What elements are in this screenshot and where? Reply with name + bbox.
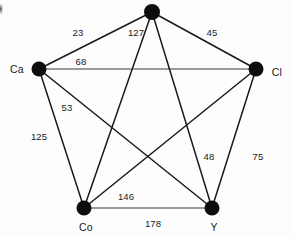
edges-group [39,12,256,208]
node-top[interactable] [144,4,160,20]
edge-Cl-Co [84,69,256,208]
edge-Cl-Y [212,69,256,208]
nodes-group [32,4,264,216]
graph-canvas [0,0,293,237]
node-Co[interactable] [77,201,92,216]
edge-top-Y [152,12,212,208]
node-Cl[interactable] [249,62,264,77]
edge-Ca-Co [39,69,84,208]
node-Y[interactable] [205,201,220,216]
graph-diagram: CaClCoY231274568531254875146178 [0,0,293,237]
node-Ca[interactable] [32,62,47,77]
